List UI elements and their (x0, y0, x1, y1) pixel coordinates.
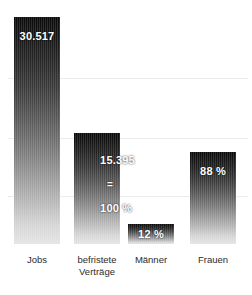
plot-area: 30.517 15.395 = 100 % 12 % 88 % (0, 0, 252, 244)
bar-value-label-frauen: 88 % (190, 165, 236, 177)
bar-frauen[interactable]: 88 % (190, 152, 236, 244)
bar-chart: 30.517 15.395 = 100 % 12 % 88 % Jobs bef… (0, 0, 252, 295)
axis-label-maenner: Männer (118, 254, 184, 266)
axis-label-frauen: Frauen (180, 254, 246, 266)
bar-value-label-line2: = (107, 179, 113, 190)
bar-value-label-jobs: 30.517 (14, 30, 60, 42)
bar-value-label-maenner: 12 % (128, 228, 174, 240)
axis-label-jobs: Jobs (4, 254, 70, 266)
bar-befristete-vertraege[interactable]: 15.395 = 100 % (74, 133, 120, 244)
bar-value-label-line1: 15.395 (100, 154, 135, 166)
x-axis-labels: Jobs befristete Verträge Männer Frauen (0, 244, 252, 295)
bar-jobs[interactable]: 30.517 (14, 17, 60, 244)
bar-value-label-befristete-vertraege: 15.395 = 100 % (74, 142, 120, 226)
bar-maenner[interactable]: 12 % (128, 224, 174, 244)
bar-value-label-line3: 100 % (100, 202, 132, 214)
